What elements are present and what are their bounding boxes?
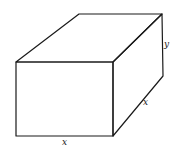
label-width-x: x bbox=[62, 137, 67, 147]
box-diagram-svg: y x x bbox=[0, 0, 177, 155]
side-face bbox=[113, 14, 163, 136]
label-depth-x: x bbox=[143, 97, 148, 107]
top-face bbox=[16, 14, 162, 62]
front-face bbox=[16, 62, 113, 136]
box-diagram: y x x bbox=[0, 0, 177, 155]
label-height-y: y bbox=[163, 39, 170, 49]
